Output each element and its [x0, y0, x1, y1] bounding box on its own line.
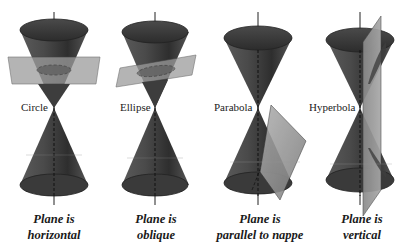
caption-line1: Plane is — [336, 211, 388, 227]
caption-line2: horizontal — [24, 227, 84, 243]
caption-parallel-to-nappe: Plane is parallel to nappe — [212, 211, 308, 243]
caption-line2: oblique — [130, 227, 182, 243]
circle-section — [37, 65, 71, 75]
cone-hyperbola — [326, 12, 394, 216]
caption-oblique: Plane is oblique — [130, 211, 182, 243]
caption-line1: Plane is — [130, 211, 182, 227]
conic-label-parabola: Parabola — [214, 101, 252, 113]
caption-line1: Plane is — [212, 211, 308, 227]
cutting-plane — [363, 16, 381, 216]
caption-line1: Plane is — [24, 211, 84, 227]
conic-label-hyperbola: Hyperbola — [309, 101, 355, 113]
caption-horizontal: Plane is horizontal — [24, 211, 84, 243]
caption-line2: vertical — [336, 227, 388, 243]
caption-vertical: Plane is vertical — [336, 211, 388, 243]
conic-label-circle: Circle — [21, 101, 48, 113]
caption-line2: parallel to nappe — [212, 227, 308, 243]
conic-label-ellipse: Ellipse — [120, 101, 151, 113]
